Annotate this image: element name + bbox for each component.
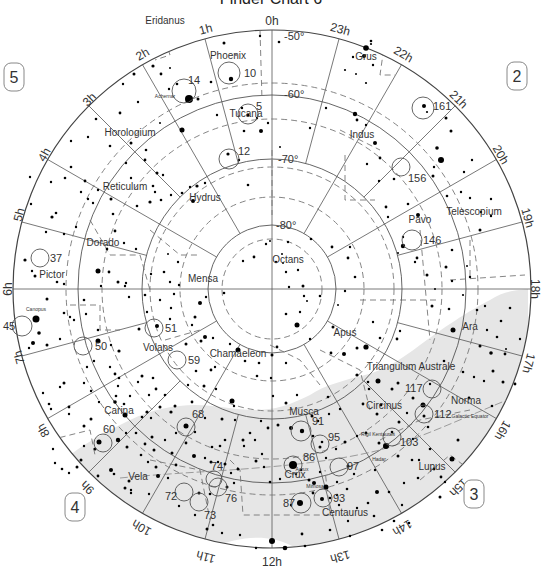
target-label[interactable]: 12 [238,145,250,157]
star [63,382,66,385]
chart-tab-number[interactable]: 4 [71,499,80,516]
star [393,520,396,523]
target-circle[interactable] [31,249,49,267]
target-label[interactable]: 93 [333,492,345,504]
target-label[interactable]: 97 [347,460,359,472]
star [84,180,87,183]
star [378,180,380,182]
target-label[interactable]: 37 [50,252,62,264]
ra-label: 13h [329,547,352,566]
target-circle[interactable] [412,97,434,119]
star [73,319,75,321]
target-label[interactable]: 117 [405,382,423,394]
star [52,448,54,450]
target-label[interactable]: 60 [103,423,115,435]
chart-tab-number[interactable]: 2 [513,68,522,85]
dec-label: -80° [276,219,296,231]
star [338,504,340,506]
target-label[interactable]: 73 [204,509,216,521]
star [23,258,26,261]
target-label[interactable]: 86 [303,451,315,463]
ra-label: 20h [490,142,512,166]
star [153,449,156,452]
target-label[interactable]: 76 [225,492,237,504]
chart-tab-number[interactable]: 5 [10,69,19,86]
target-label[interactable]: 95 [328,431,340,443]
constellation-label: Grus [355,51,377,62]
target-label[interactable]: 103 [400,436,418,448]
star [80,191,82,193]
star [114,373,117,376]
star [191,324,193,326]
target-label[interactable]: 87 [283,497,295,509]
target-label[interactable]: 59 [188,354,200,366]
star [367,381,370,384]
star [124,285,126,287]
target-10[interactable]: 10 [218,62,256,84]
target-label[interactable]: 112 [434,408,452,420]
star [68,472,70,474]
star [234,419,236,421]
adjacent-chart-tab-2[interactable]: 2 [507,62,527,90]
ra-label: 23h [329,20,352,39]
target-45[interactable]: 45 [3,316,32,336]
star [184,424,189,429]
adjacent-chart-tab-5[interactable]: 5 [4,63,24,91]
constellation-label: Norma [451,395,481,406]
target-label[interactable]: 161 [433,100,451,112]
target-circle[interactable] [218,62,240,84]
target-59[interactable]: 59 [168,351,200,369]
star [141,375,144,378]
star [129,395,131,397]
target-label[interactable]: 51 [165,322,177,334]
target-circle[interactable] [168,351,186,369]
star [212,524,215,527]
target-label[interactable]: 156 [408,172,426,184]
star [210,81,213,84]
star [170,307,172,309]
star [181,192,184,195]
target-50[interactable]: 50 [74,337,107,355]
dec-label: -60° [284,88,304,100]
target-156[interactable]: 156 [392,158,426,184]
star [379,337,382,340]
star [519,338,521,340]
target-label[interactable]: 14 [188,74,200,86]
star [277,424,280,427]
star [352,56,354,58]
adjacent-chart-tab-3[interactable]: 3 [464,480,484,508]
star [325,457,327,459]
target-label[interactable]: 74 [211,460,223,472]
star [175,464,178,467]
target-label[interactable]: 45 [3,320,15,332]
target-label[interactable]: 146 [423,234,441,246]
star [203,385,206,388]
star [114,230,117,233]
star [310,238,313,241]
target-label[interactable]: 68 [192,408,204,420]
star [259,35,261,37]
star [244,360,247,363]
star [159,406,162,409]
target-146[interactable]: 146 [402,230,441,250]
target-label[interactable]: 50 [95,340,107,352]
star [215,388,217,390]
star [299,311,301,313]
target-label[interactable]: 10 [244,67,256,79]
star [224,439,227,442]
adjacent-chart-tab-4[interactable]: 4 [65,493,85,521]
target-label[interactable]: 72 [165,490,177,502]
star [444,481,446,483]
star [347,520,349,522]
ra-label: 7h [11,349,28,366]
star [206,528,209,531]
star [279,478,281,480]
star [154,191,156,193]
target-37[interactable]: 37 [31,249,62,267]
star [278,41,281,44]
star [407,203,410,206]
chart-tab-number[interactable]: 3 [470,486,479,503]
star-name-label: Galactic Equator [452,413,489,419]
target-circle[interactable] [402,230,422,250]
star [118,377,121,380]
